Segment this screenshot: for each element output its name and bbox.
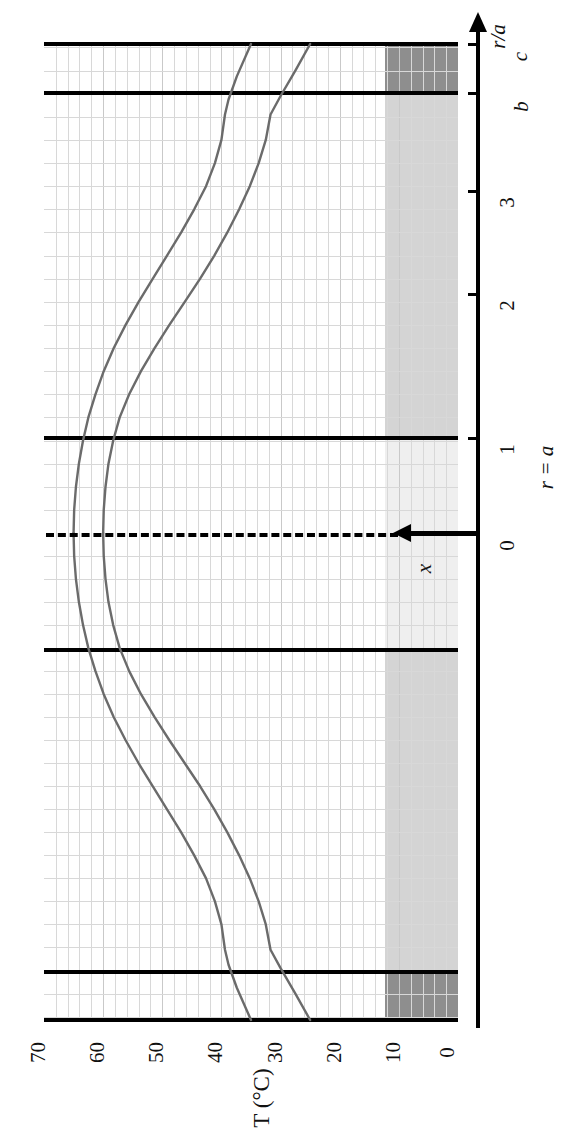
radius-tick-3 [468,190,480,193]
centerline-dashed [46,533,398,537]
radius-tick-b [468,92,480,95]
temperature-tick-label: 60 [85,1042,110,1063]
radius-label-r-equals-a: r = a [534,446,559,489]
radius-tick-2 [468,293,480,296]
temperature-tick-label: 70 [26,1042,51,1063]
curve-profile-1-upper [74,44,251,533]
radius-tick-label-b: b [509,101,534,112]
radius-tick-label-2: 2 [495,300,520,311]
radius-tick-label-3: 3 [495,197,520,208]
x-arrow-label: x [412,564,437,573]
radius-tick-label-1: 1 [495,444,520,455]
curve-profile-1-lower [74,533,251,1020]
curve-profile-2-upper [103,44,310,533]
temperature-tick-label: 10 [381,1042,406,1063]
radius-axis-arrowhead [469,12,487,32]
temperature-tick-label: 30 [263,1042,288,1063]
temperature-tick-label: 0 [435,1047,460,1058]
temperature-tick-label: 20 [322,1042,347,1063]
radius-axis-line [476,28,480,1028]
temperature-tick-label: 50 [144,1042,169,1063]
radius-axis-title: r/a [486,24,511,49]
temperature-axis-title: T (°C) [249,1068,275,1127]
radius-tick-label-0: 0 [495,540,520,551]
radius-tick-1 [468,437,480,440]
radius-tick-0 [468,532,480,535]
radius-tick-label-c: c [508,52,533,61]
curve-profile-2-lower [103,533,310,1020]
x-arrow-head [393,524,411,542]
radius-tick-c [468,43,480,46]
temperature-tick-label: 40 [203,1042,228,1063]
